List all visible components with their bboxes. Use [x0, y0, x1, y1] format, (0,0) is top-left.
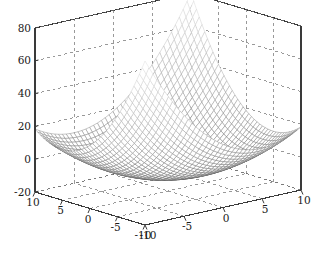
tick-label-x-0: 0 [85, 213, 92, 225]
tick-label-y--10: -10 [140, 229, 157, 241]
tick-label-y-0: 0 [223, 212, 230, 224]
tick-label-z-0: 0 [24, 153, 31, 165]
tick-label-y-5: 5 [262, 203, 269, 215]
tick-label-y-10: 10 [297, 194, 310, 206]
tick-label-z-60: 60 [18, 54, 31, 66]
gridline-floor-x--5 [118, 182, 274, 217]
tick-label-x-10: 10 [26, 196, 39, 208]
mesh-surface [35, 0, 301, 180]
gridline-floor-y--5 [74, 183, 184, 216]
tick-label-z-20: 20 [18, 120, 31, 132]
tick-label-x--5: -5 [110, 221, 120, 233]
tick-label-z-40: 40 [18, 87, 31, 99]
plot-canvas: -200204060801050-5-10-10-50510 [0, 0, 323, 260]
tick-label-y--5: -5 [182, 220, 192, 232]
tick-label-x-5: 5 [57, 204, 64, 216]
tick-label-z-80: 80 [18, 22, 31, 34]
figure-3d-surface-plot: -200204060801050-5-10-10-50510 [0, 0, 323, 260]
